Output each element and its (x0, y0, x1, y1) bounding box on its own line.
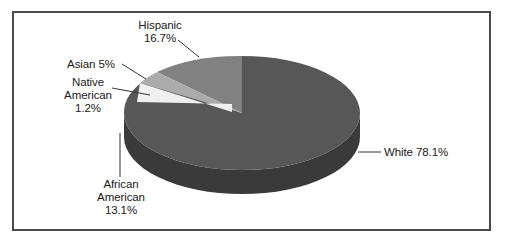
callout-african-american: African American 13.1% (82, 178, 160, 217)
callout-white-line1: White 78.1% (384, 146, 448, 159)
callout-native-american: Native American 1.2% (48, 76, 128, 115)
callout-asian: Asian 5% (58, 58, 124, 71)
callout-asian-line1: Asian 5% (58, 58, 124, 71)
callout-native-american-line3: 1.2% (48, 102, 128, 115)
callout-white: White 78.1% (384, 146, 448, 159)
callout-african-american-line1: African (82, 178, 160, 191)
pie-chart-canvas (0, 0, 508, 247)
callout-hispanic-line1: Hispanic (124, 19, 196, 32)
callout-african-american-line2: American (82, 191, 160, 204)
callout-native-american-line1: Native (48, 76, 128, 89)
callout-native-american-line2: American (48, 89, 128, 102)
pie-top-surfaces (124, 56, 360, 170)
callout-african-american-line3: 13.1% (82, 204, 160, 217)
callout-hispanic: Hispanic 16.7% (124, 19, 196, 45)
callout-hispanic-line2: 16.7% (124, 32, 196, 45)
